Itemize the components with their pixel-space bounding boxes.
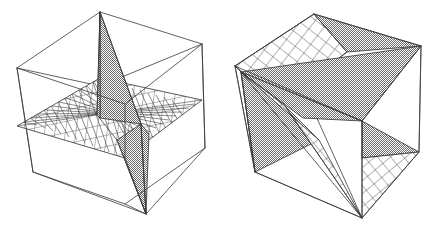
shaded-sheet-lower-right — [362, 121, 419, 158]
left-figure-svg — [0, 0, 219, 235]
left-figure-panel — [0, 0, 219, 235]
right-figure-panel — [219, 0, 438, 235]
figure-pair — [0, 0, 438, 235]
right-figure-svg — [219, 0, 438, 235]
